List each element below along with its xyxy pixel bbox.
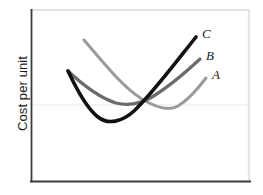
plot-background xyxy=(31,10,250,182)
cost-curve-chart: C B A Cost per unit xyxy=(0,0,263,195)
y-axis-title: Cost per unit xyxy=(15,34,30,154)
curve-label-c: C xyxy=(202,26,211,41)
chart-plot-area: C B A xyxy=(0,0,263,195)
curve-label-b: B xyxy=(206,48,214,63)
curve-label-a: A xyxy=(211,67,220,82)
